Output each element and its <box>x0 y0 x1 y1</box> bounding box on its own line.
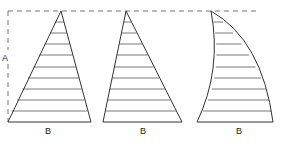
height-reference-lines <box>8 11 258 122</box>
shape-triangle-right <box>103 11 182 122</box>
base-label-b-1: B <box>45 126 51 136</box>
shape-triangle-left <box>8 11 91 122</box>
base-label-b-3: B <box>236 126 242 136</box>
sail-outline <box>197 11 273 122</box>
triangle-outline <box>8 11 91 122</box>
diagram-canvas: A B B <box>0 0 282 145</box>
triangle-outline <box>103 11 182 122</box>
base-label-b-2: B <box>140 126 146 136</box>
shape-curved-sail <box>197 11 273 122</box>
height-label-a: A <box>2 53 8 63</box>
